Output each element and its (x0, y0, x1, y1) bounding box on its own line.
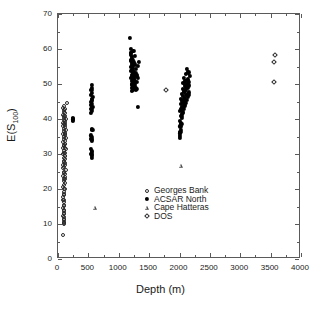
tick-mark (180, 14, 181, 18)
tick-mark (119, 14, 120, 18)
tick-mark (225, 14, 226, 16)
data-point (62, 193, 66, 197)
data-point (187, 74, 191, 78)
data-point (63, 175, 67, 179)
legend-marker-open-circle-icon (140, 186, 154, 195)
tick-mark (149, 14, 150, 18)
data-point (63, 154, 67, 158)
data-point (137, 60, 141, 64)
tick-mark (58, 172, 60, 173)
data-point (63, 121, 67, 125)
tick-mark (104, 255, 105, 257)
data-point (128, 36, 132, 40)
data-point (62, 222, 66, 226)
tick-mark (73, 255, 74, 257)
x-tick-label: 4000 (291, 263, 309, 272)
plot-area (57, 13, 300, 258)
tick-mark (58, 253, 59, 257)
x-axis-title: Depth (m) (0, 283, 321, 295)
tick-mark (88, 253, 89, 257)
legend-marker-open-triangle-icon (140, 203, 154, 212)
y-tick-label: 20 (30, 184, 52, 193)
data-point (61, 198, 65, 202)
tick-mark (88, 14, 89, 18)
tick-mark (58, 32, 60, 33)
tick-mark (58, 67, 60, 68)
legend-open-triangle-icon (145, 206, 149, 210)
tick-mark (255, 255, 256, 257)
tick-mark (295, 119, 299, 120)
y-tick-label: 30 (30, 149, 52, 158)
tick-mark (134, 255, 135, 257)
legend-marker-filled-circle-icon (140, 195, 154, 204)
x-tick-label: 2000 (170, 263, 188, 272)
data-point (187, 83, 191, 87)
tick-mark (295, 84, 299, 85)
tick-mark (286, 255, 287, 257)
tick-mark (297, 172, 299, 173)
data-point (61, 214, 65, 218)
tick-mark (58, 14, 62, 15)
tick-mark (149, 253, 150, 257)
tick-mark (295, 49, 299, 50)
tick-mark (210, 253, 211, 257)
tick-mark (297, 67, 299, 68)
data-point (63, 142, 67, 146)
y-tick-label: 50 (30, 79, 52, 88)
legend-open-diamond-icon (144, 214, 150, 220)
data-point (178, 130, 182, 134)
y-tick-label: 70 (30, 9, 52, 18)
x-tick-label: 3000 (230, 263, 248, 272)
tick-mark (58, 102, 60, 103)
tick-mark (58, 242, 60, 243)
tick-mark (195, 14, 196, 16)
data-point (272, 52, 278, 58)
tick-mark (297, 137, 299, 138)
tick-mark (295, 224, 299, 225)
tick-mark (295, 154, 299, 155)
legend: Georges BankACSAR NorthCape HatterasDOS (140, 186, 236, 220)
tick-mark (164, 14, 165, 16)
y-axis-title-base: E(S (5, 124, 17, 142)
tick-mark (134, 14, 135, 16)
legend-filled-circle-icon (145, 197, 149, 201)
tick-mark (58, 84, 62, 85)
x-tick-label: 2500 (200, 263, 218, 272)
tick-mark (297, 102, 299, 103)
y-axis-title-close: ) (5, 108, 17, 112)
tick-mark (295, 14, 299, 15)
x-axis-title-text: Depth (m) (136, 283, 185, 295)
y-tick-label: 0 (30, 254, 52, 263)
data-point (132, 54, 136, 58)
tick-mark (164, 255, 165, 257)
data-point (271, 59, 277, 65)
data-point (134, 88, 138, 92)
y-tick-label: 40 (30, 114, 52, 123)
data-point (136, 64, 140, 68)
tick-mark (255, 14, 256, 16)
y-axis-title-subscript: 100 (12, 112, 19, 124)
tick-mark (297, 242, 299, 243)
tick-mark (210, 14, 211, 18)
data-point (271, 79, 277, 85)
data-point (62, 208, 66, 212)
data-point (62, 160, 66, 164)
y-axis-title: E(S100) (5, 75, 19, 175)
data-point (93, 205, 97, 209)
y-tick-label: 10 (30, 219, 52, 228)
tick-mark (180, 253, 181, 257)
tick-mark (58, 259, 62, 260)
tick-mark (58, 49, 62, 50)
data-point (136, 105, 140, 109)
tick-mark (225, 255, 226, 257)
tick-mark (271, 14, 272, 18)
tick-mark (301, 14, 302, 18)
x-tick-label: 0 (55, 263, 59, 272)
tick-mark (240, 14, 241, 18)
tick-mark (240, 253, 241, 257)
tick-mark (297, 207, 299, 208)
tick-mark (119, 253, 120, 257)
legend-item[interactable]: DOS (140, 212, 236, 221)
tick-mark (295, 259, 299, 260)
legend-open-circle-icon (145, 189, 149, 193)
